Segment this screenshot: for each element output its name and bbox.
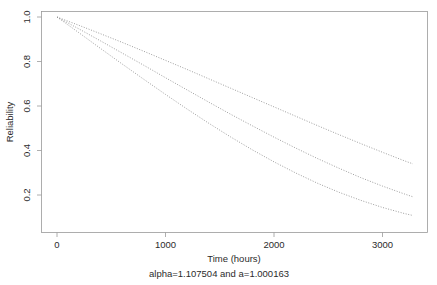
chart-root: 0 1000 2000 3000 0.2 0.4 0.6 0.8 1.0 Rel… [0, 0, 437, 285]
x-tick-label-1: 1000 [155, 239, 176, 250]
plot-caption: alpha=1.107504 and a=1.000163 [149, 268, 289, 279]
x-axis-title: Time (hours) [207, 253, 261, 264]
y-tick-label-2: 0.6 [21, 99, 32, 112]
y-tick-labels: 0.2 0.4 0.6 0.8 1.0 [21, 10, 32, 201]
x-tick-label-2: 2000 [263, 239, 284, 250]
curve-upper-confidence-bound [57, 17, 413, 164]
reliability-plot: 0 1000 2000 3000 0.2 0.4 0.6 0.8 1.0 Rel… [0, 0, 437, 285]
x-axis-ticks [57, 233, 383, 238]
y-tick-label-1: 0.4 [21, 144, 32, 157]
data-curves [57, 17, 413, 215]
y-axis-ticks [37, 17, 42, 195]
plot-frame [42, 12, 428, 233]
y-tick-label-4: 1.0 [21, 10, 32, 23]
y-axis-title: Reliability [4, 101, 15, 142]
x-tick-label-3: 3000 [372, 239, 393, 250]
x-tick-labels: 0 1000 2000 3000 [54, 239, 393, 250]
x-tick-label-0: 0 [54, 239, 59, 250]
y-tick-label-3: 0.8 [21, 55, 32, 68]
curve-reliability-estimate [57, 17, 413, 197]
y-tick-label-0: 0.2 [21, 188, 32, 201]
